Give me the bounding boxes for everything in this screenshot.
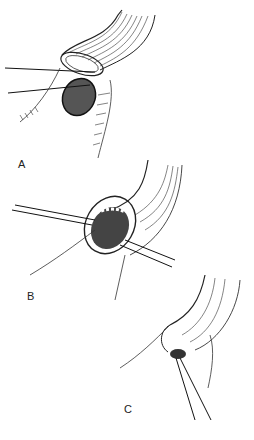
panel-a: A bbox=[0, 0, 254, 160]
panel-label-c: C bbox=[124, 404, 132, 415]
panel-c: C bbox=[0, 270, 254, 440]
panel-a-illustration bbox=[0, 0, 254, 160]
